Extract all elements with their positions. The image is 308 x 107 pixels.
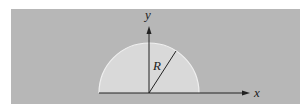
x-axis-arrow-icon — [242, 91, 250, 96]
radius-label: R — [152, 58, 161, 73]
semicircle-diagram: y x R — [0, 0, 308, 107]
x-axis-label: x — [253, 85, 260, 100]
y-axis-arrow-icon — [147, 26, 152, 34]
y-axis-label: y — [143, 7, 151, 22]
